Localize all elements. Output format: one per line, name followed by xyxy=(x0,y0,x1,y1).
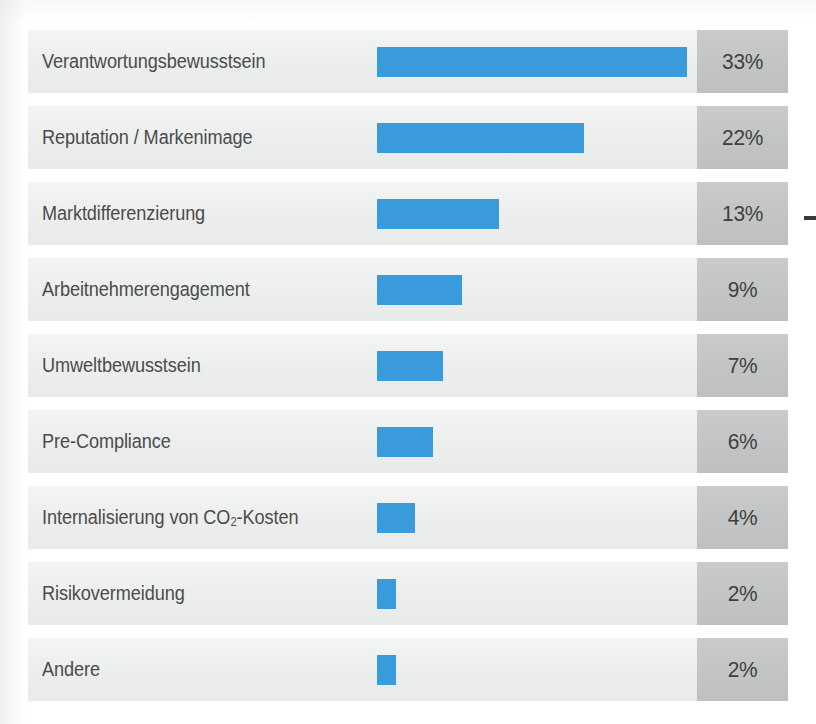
row-label-subscript: 2 xyxy=(230,515,236,529)
value-bar xyxy=(377,47,687,77)
value-label: 2% xyxy=(728,657,758,683)
value-cell: 4% xyxy=(697,486,788,549)
row-label: Umweltbewusstsein xyxy=(42,334,201,397)
value-bar xyxy=(377,199,499,229)
value-bar xyxy=(377,351,443,381)
value-cell: 7% xyxy=(697,334,788,397)
value-label: 33% xyxy=(722,49,763,75)
value-bar xyxy=(377,503,415,533)
bar-track xyxy=(377,562,697,625)
value-cell: 13% xyxy=(697,182,788,245)
chart-row: Reputation / Markenimage22% xyxy=(28,106,788,169)
chart-row: Pre-Compliance6% xyxy=(28,410,788,473)
row-label: Arbeitnehmerengagement xyxy=(42,258,250,321)
chart-row: Internalisierung von CO2-Kosten4% xyxy=(28,486,788,549)
chart-row: Arbeitnehmerengagement9% xyxy=(28,258,788,321)
row-label-suffix: -Kosten xyxy=(237,506,299,529)
chart-row: Verantwortungsbewusstsein33% xyxy=(28,30,788,93)
row-label: Pre-Compliance xyxy=(42,410,171,473)
bar-track xyxy=(377,30,697,93)
chart-row: Umweltbewusstsein7% xyxy=(28,334,788,397)
value-bar xyxy=(377,579,396,609)
value-bar xyxy=(377,655,396,685)
value-bar xyxy=(377,275,462,305)
bar-track xyxy=(377,638,697,701)
edge-annotation-dash xyxy=(804,216,816,220)
value-label: 22% xyxy=(722,125,763,151)
chart-row: Risikovermeidung2% xyxy=(28,562,788,625)
value-label: 2% xyxy=(728,581,758,607)
value-label: 9% xyxy=(728,277,758,303)
bar-track xyxy=(377,410,697,473)
horizontal-bar-chart: Verantwortungsbewusstsein33%Reputation /… xyxy=(28,30,788,701)
value-bar xyxy=(377,427,433,457)
value-cell: 33% xyxy=(697,30,788,93)
row-label: Marktdifferenzierung xyxy=(42,182,205,245)
value-label: 13% xyxy=(722,201,763,227)
value-label: 4% xyxy=(728,505,758,531)
value-label: 7% xyxy=(728,353,758,379)
value-cell: 22% xyxy=(697,106,788,169)
bar-track xyxy=(377,486,697,549)
value-cell: 6% xyxy=(697,410,788,473)
bar-track xyxy=(377,182,697,245)
value-cell: 9% xyxy=(697,258,788,321)
chart-row: Marktdifferenzierung13% xyxy=(28,182,788,245)
row-label: Andere xyxy=(42,638,100,701)
row-label: Reputation / Markenimage xyxy=(42,106,252,169)
value-cell: 2% xyxy=(697,562,788,625)
row-label: Risikovermeidung xyxy=(42,562,185,625)
value-cell: 2% xyxy=(697,638,788,701)
value-label: 6% xyxy=(728,429,758,455)
row-label-text: Internalisierung von CO xyxy=(42,506,230,529)
bar-track xyxy=(377,258,697,321)
chart-row: Andere2% xyxy=(28,638,788,701)
bar-track xyxy=(377,334,697,397)
value-bar xyxy=(377,123,584,153)
row-label: Verantwortungsbewusstsein xyxy=(42,30,265,93)
bar-track xyxy=(377,106,697,169)
row-label: Internalisierung von CO2-Kosten xyxy=(42,486,298,549)
